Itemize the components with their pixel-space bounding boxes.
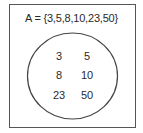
set-element: 23 [47,89,71,101]
set-element: 50 [75,89,99,101]
set-a-circle-diagram [0,0,143,133]
set-element: 5 [75,50,99,62]
set-element: 10 [75,69,99,81]
set-element: 3 [47,50,71,62]
set-element: 8 [47,69,71,81]
set-a-circle [28,33,118,119]
